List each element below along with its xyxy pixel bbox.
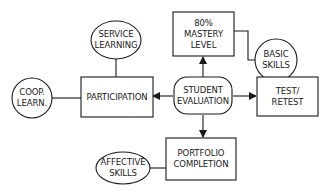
label-line: SKILLS bbox=[262, 60, 290, 71]
basic-skills-label: BASIC SKILLS bbox=[255, 39, 297, 81]
label-line: EVALUATION bbox=[177, 96, 229, 107]
participation-label: PARTICIPATION bbox=[81, 77, 153, 117]
label-line: MASTERY bbox=[184, 29, 223, 40]
label-line: PARTICIPATION bbox=[86, 92, 147, 103]
label-line: TEST/ bbox=[276, 86, 300, 97]
label-line: SERVICE bbox=[98, 29, 133, 40]
label-line: BASIC bbox=[264, 49, 289, 60]
label-line: STUDENT bbox=[183, 85, 223, 96]
label-line: LEVEL bbox=[191, 40, 217, 51]
student-evaluation-label: STUDENT EVALUATION bbox=[174, 77, 232, 114]
mastery-level-label: 80% MASTERY LEVEL bbox=[173, 12, 234, 56]
service-learning-label: SERVICE LEARNING bbox=[91, 21, 141, 59]
affective-skills-label: AFFECTIVE SKILLS bbox=[96, 152, 150, 184]
label-line: RETEST bbox=[272, 97, 304, 108]
label-line: COOP. bbox=[19, 87, 44, 98]
portfolio-completion-label: PORTFOLIO COMPLETION bbox=[166, 138, 236, 180]
label-line: LEARNING bbox=[95, 40, 138, 51]
label-line: COMPLETION bbox=[174, 159, 229, 170]
label-line: SKILLS bbox=[109, 168, 137, 179]
edge-mastery-basic bbox=[234, 31, 255, 60]
label-line: PORTFOLIO bbox=[178, 148, 225, 159]
coop-learn-label: COOP. LEARN. bbox=[12, 78, 52, 118]
test-retest-label: TEST/ RETEST bbox=[257, 77, 318, 116]
label-line: 80% bbox=[194, 18, 213, 29]
label-line: AFFECTIVE bbox=[101, 157, 146, 168]
label-line: LEARN. bbox=[17, 98, 47, 109]
